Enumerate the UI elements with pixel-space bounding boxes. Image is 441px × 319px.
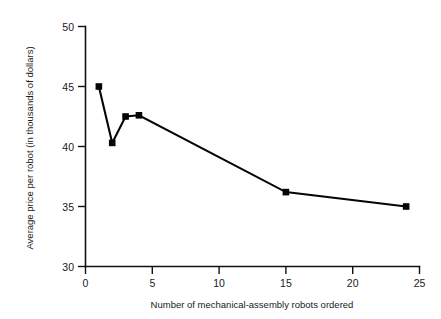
y-tick-label-35: 35 (62, 201, 74, 213)
y-axis-title: Average price per robot (in thousands of… (24, 46, 35, 249)
x-axis-title: Number of mechanical-assembly robots ord… (151, 299, 354, 310)
data-series-group (96, 83, 410, 210)
y-tick-label-50: 50 (62, 21, 74, 33)
x-tick-marks (86, 267, 420, 275)
x-tick-label-20: 20 (347, 277, 359, 289)
x-tick-label-10: 10 (213, 277, 225, 289)
x-tick-labels: 0 5 10 15 20 25 (83, 277, 426, 289)
axis-frame (86, 27, 420, 267)
x-tick-label-25: 25 (414, 277, 426, 289)
data-point-marker (96, 83, 103, 90)
series-line-average-price (99, 87, 406, 207)
x-tick-label-5: 5 (149, 277, 155, 289)
series-markers-group (96, 83, 410, 210)
data-point-marker (403, 203, 410, 210)
data-point-marker (122, 113, 129, 120)
y-tick-marks (78, 27, 86, 267)
x-tick-label-15: 15 (280, 277, 292, 289)
line-chart: 50 45 40 35 30 0 5 10 15 20 25 (0, 0, 441, 319)
y-tick-labels: 50 45 40 35 30 (62, 21, 74, 273)
x-tick-label-0: 0 (83, 277, 89, 289)
y-tick-label-40: 40 (62, 141, 74, 153)
data-point-marker (283, 189, 290, 196)
y-tick-label-45: 45 (62, 81, 74, 93)
data-point-marker (136, 112, 143, 119)
y-tick-label-30: 30 (62, 261, 74, 273)
chart-svg: 50 45 40 35 30 0 5 10 15 20 25 (0, 0, 441, 319)
chart-axes (86, 27, 420, 267)
data-point-marker (109, 140, 116, 147)
